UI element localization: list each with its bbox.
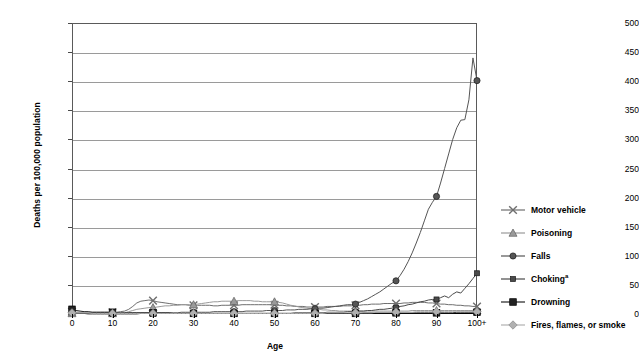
legend-marker-icon xyxy=(500,295,526,309)
legend-item-poisoning[interactable]: Poisoning xyxy=(500,221,639,244)
x-axis-tick-label: 40 xyxy=(214,318,254,328)
legend-item-choking[interactable]: Chokinga xyxy=(500,267,639,290)
legend-item-label: Chokinga xyxy=(531,273,568,284)
legend-marker-icon xyxy=(500,226,526,240)
x-axis-tick-label: 60 xyxy=(295,318,335,328)
data-point-marker xyxy=(511,276,516,281)
legend-item-label: Falls xyxy=(531,251,550,261)
legend-item-label: Poisoning xyxy=(531,228,572,238)
legend-marker-icon xyxy=(500,249,526,263)
x-axis-tick-label: 30 xyxy=(174,318,214,328)
x-axis-title: Age xyxy=(72,341,478,351)
x-axis-tick-label: 10 xyxy=(93,318,133,328)
y-axis-tick-label: 250 xyxy=(603,165,639,174)
x-axis-tick-label: 20 xyxy=(133,318,173,328)
y-axis-tick-label: 450 xyxy=(603,48,639,57)
data-point-marker xyxy=(475,271,480,276)
data-point-marker xyxy=(510,252,516,258)
x-axis-tick-label: 90 xyxy=(417,318,457,328)
data-point-marker xyxy=(393,278,399,284)
legend-footnote-marker: a xyxy=(565,273,568,279)
legend-marker-icon xyxy=(500,272,526,286)
data-point-marker xyxy=(474,78,480,84)
y-axis-tick-label: 300 xyxy=(603,135,639,144)
legend-item-falls[interactable]: Falls xyxy=(500,244,639,267)
series-falls xyxy=(69,58,480,317)
y-axis-tick-label: 500 xyxy=(603,19,639,28)
legend-marker-icon xyxy=(500,318,526,332)
legend-item-fires-flames-or-smoke[interactable]: Fires, flames, or smoke xyxy=(500,313,639,336)
x-axis-tick-label: 70 xyxy=(336,318,376,328)
series-layer xyxy=(72,23,477,314)
legend-item-label: Drowning xyxy=(531,297,570,307)
y-axis-tick-label: 350 xyxy=(603,106,639,115)
x-axis-tick-label: 0 xyxy=(52,318,92,328)
data-point-marker xyxy=(433,193,439,199)
y-axis-title: Deaths per 100,000 population xyxy=(32,45,42,285)
series-line xyxy=(72,58,477,314)
legend-item-motor-vehicle[interactable]: Motor vehicle xyxy=(500,198,639,221)
legend-item-drowning[interactable]: Drowning xyxy=(500,290,639,313)
legend-item-label: Motor vehicle xyxy=(531,205,586,215)
chart-figure: Deaths per 100,000 population 0501001502… xyxy=(0,0,639,364)
chart-legend: Motor vehiclePoisoningFallsChokingaDrown… xyxy=(500,198,639,336)
data-point-marker xyxy=(509,320,517,328)
legend-item-label: Fires, flames, or smoke xyxy=(531,320,626,330)
x-axis-tick-label: 80 xyxy=(376,318,416,328)
data-point-marker xyxy=(434,297,439,302)
y-axis-tick-label: 400 xyxy=(603,77,639,86)
data-point-marker xyxy=(510,298,517,305)
legend-marker-icon xyxy=(500,203,526,217)
data-point-marker xyxy=(352,301,358,307)
x-axis-tick-label: 100+ xyxy=(457,318,497,328)
x-axis-tick-label: 50 xyxy=(255,318,295,328)
